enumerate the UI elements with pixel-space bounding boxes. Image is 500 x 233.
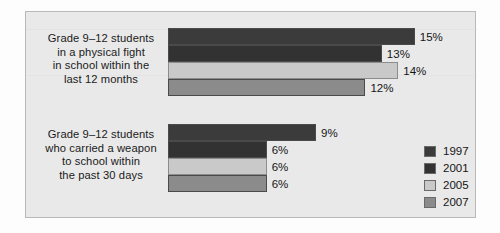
bar-2001-group2[interactable]: [168, 141, 267, 158]
bar-value-label: 14%: [403, 66, 426, 78]
group-label-line: to school within: [34, 155, 168, 169]
bar-value-label: 6%: [272, 179, 289, 191]
legend: 1997 2001 2005 2007: [424, 143, 469, 211]
legend-label: 2005: [443, 180, 469, 192]
chart-page: 15%9%13%6%14%6%12%6% Grade 9–12 students…: [0, 0, 500, 233]
bar-value-label: 15%: [420, 32, 443, 44]
bar-1997-group2[interactable]: [168, 124, 316, 141]
group-label-carried-weapon: Grade 9–12 students who carried a weapon…: [34, 128, 168, 182]
bar-2007-group1[interactable]: [168, 79, 365, 96]
group-label-line: in a physical fight: [34, 46, 168, 60]
group-label-line: the past 30 days: [34, 169, 168, 183]
group-label-line: Grade 9–12 students: [34, 128, 168, 142]
group-label-line: who carried a weapon: [34, 142, 168, 156]
legend-label: 1997: [443, 146, 469, 158]
legend-item-2001[interactable]: 2001: [424, 160, 469, 177]
bar-value-label: 6%: [272, 145, 289, 157]
legend-label: 2001: [443, 163, 469, 175]
group-label-line: Grade 9–12 students: [34, 32, 168, 46]
bar-value-label: 12%: [370, 83, 393, 95]
legend-swatch-icon: [424, 180, 436, 191]
bar-2005-group1[interactable]: [168, 62, 398, 79]
bar-2007-group2[interactable]: [168, 175, 267, 192]
bar-value-label: 6%: [272, 162, 289, 174]
group-label-physical-fight: Grade 9–12 students in a physical fight …: [34, 32, 168, 86]
group-label-line: last 12 months: [34, 73, 168, 87]
legend-item-1997[interactable]: 1997: [424, 143, 469, 160]
bar-2005-group2[interactable]: [168, 158, 267, 175]
bar-2001-group1[interactable]: [168, 45, 382, 62]
chart-panel: 15%9%13%6%14%6%12%6% Grade 9–12 students…: [25, 11, 476, 218]
group-label-line: in school within the: [34, 59, 168, 73]
legend-item-2007[interactable]: 2007: [424, 194, 469, 211]
legend-label: 2007: [443, 197, 469, 209]
legend-swatch-icon: [424, 163, 436, 174]
bar-1997-group1[interactable]: [168, 28, 415, 45]
legend-swatch-icon: [424, 146, 436, 157]
legend-item-2005[interactable]: 2005: [424, 177, 469, 194]
bar-value-label: 9%: [321, 128, 338, 140]
legend-swatch-icon: [424, 197, 436, 208]
bar-value-label: 13%: [387, 49, 410, 61]
